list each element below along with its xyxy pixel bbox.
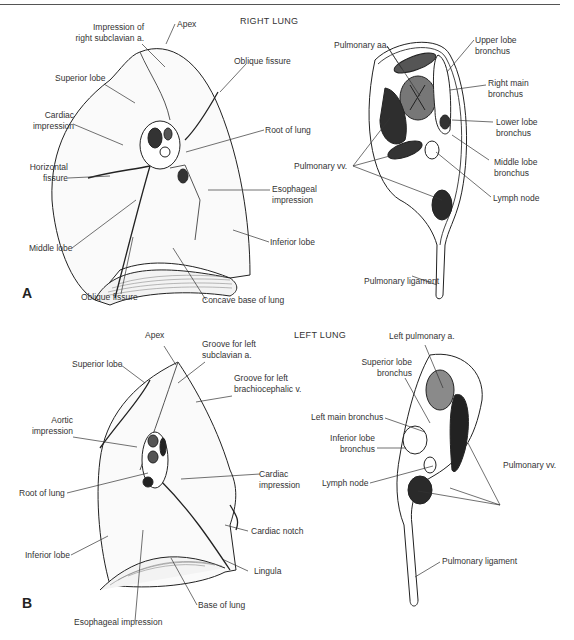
label-pulmonary-vv-a: Pulmonary vv. bbox=[294, 161, 347, 172]
panel-a-title: RIGHT LUNG bbox=[240, 16, 298, 26]
label-pulmonary-ligament-b: Pulmonary ligament bbox=[442, 556, 517, 567]
label-apex-a: Apex bbox=[177, 19, 196, 30]
label-superior-lobe-bronchus: Superior lobe bronchus bbox=[352, 357, 412, 379]
label-lymph-node-a: Lymph node bbox=[493, 193, 539, 204]
label-pulmonary-aa: Pulmonary aa. bbox=[334, 40, 389, 51]
label-esophageal-impression-a: Esophageal impression bbox=[272, 184, 317, 206]
label-oblique-fissure-top: Oblique fissure bbox=[234, 56, 291, 67]
label-root-of-lung-a: Root of lung bbox=[265, 125, 311, 136]
left-lung-drawing bbox=[98, 362, 238, 590]
label-cardiac-impression-a: Cardiac impression bbox=[30, 110, 74, 132]
label-middle-lobe: Middle lobe bbox=[29, 243, 72, 254]
panel-b-title: LEFT LUNG bbox=[294, 330, 346, 340]
label-pulmonary-vv-b: Pulmonary vv. bbox=[503, 460, 556, 471]
label-upper-lobe-bronchus: Upper lobe bronchus bbox=[475, 35, 517, 57]
label-superior-lobe-b: Superior lobe bbox=[72, 359, 123, 370]
label-groove-brachiocephalic: Groove for left brachiocephalic v. bbox=[234, 373, 301, 395]
label-right-main-bronchus: Right main bronchus bbox=[488, 78, 529, 100]
label-inferior-lobe-bronchus: Inferior lobe bronchus bbox=[320, 433, 375, 455]
label-inferior-lobe-a: Inferior lobe bbox=[270, 237, 315, 248]
label-pulmonary-ligament-a: Pulmonary ligament bbox=[364, 276, 439, 287]
right-root-section bbox=[369, 42, 467, 298]
panel-a-letter: A bbox=[22, 285, 32, 301]
label-inferior-lobe-b: Inferior lobe bbox=[25, 550, 70, 561]
label-lymph-node-b: Lymph node bbox=[322, 478, 368, 489]
label-aortic-impression: Aortic impression bbox=[30, 415, 73, 437]
label-groove-subclavian: Groove for left subclavian a. bbox=[202, 339, 256, 361]
label-middle-lobe-bronchus: Middle lobe bronchus bbox=[494, 157, 537, 179]
label-lower-lobe-bronchus: Lower lobe bronchus bbox=[496, 117, 538, 139]
anatomy-figure-page: RIGHT LUNG A Impression of right subclav… bbox=[0, 0, 574, 640]
label-apex-b: Apex bbox=[145, 330, 164, 341]
label-horizontal-fissure: Horizontal fissure bbox=[20, 162, 68, 184]
label-esophageal-impression-b: Esophageal impression bbox=[74, 617, 162, 628]
label-cardiac-impression-b: Cardiac impression bbox=[259, 469, 300, 491]
label-root-of-lung-b: Root of lung bbox=[19, 488, 65, 499]
right-lung-drawing bbox=[52, 49, 250, 305]
label-concave-base: Concave base of lung bbox=[202, 295, 284, 306]
label-superior-lobe-a: Superior lobe bbox=[55, 73, 106, 84]
label-left-main-bronchus: Left main bronchus bbox=[311, 412, 383, 423]
label-left-pulmonary-a: Left pulmonary a. bbox=[389, 331, 455, 342]
label-base-of-lung: Base of lung bbox=[198, 600, 245, 611]
left-root-section bbox=[397, 354, 482, 606]
label-oblique-fissure-bottom: Oblique fissure bbox=[81, 292, 138, 303]
panel-b-letter: B bbox=[22, 595, 32, 611]
label-cardiac-notch: Cardiac notch bbox=[251, 526, 303, 537]
label-impression-subclavian: Impression of right subclavian a. bbox=[64, 22, 144, 44]
label-lingula: Lingula bbox=[254, 566, 281, 577]
